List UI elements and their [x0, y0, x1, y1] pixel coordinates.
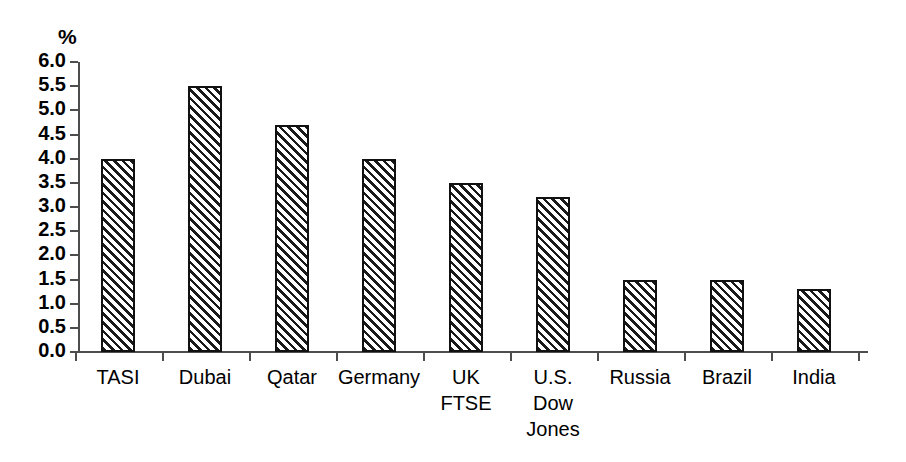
bar-slot — [710, 62, 744, 352]
x-axis-tick-mark — [858, 352, 860, 361]
x-axis-tick-mark — [162, 352, 164, 361]
y-axis-tick-mark — [70, 327, 78, 329]
y-axis-tick-label: 4.5 — [38, 123, 66, 143]
y-axis-tick-label: 5.5 — [38, 74, 66, 94]
x-axis-tick-mark — [249, 352, 251, 361]
y-axis-tick-mark — [70, 85, 78, 87]
y-axis-tick-label: 1.0 — [38, 292, 66, 312]
y-axis-tick-mark — [70, 206, 78, 208]
x-axis-tick-mark — [423, 352, 425, 361]
y-axis-tick-label: 2.0 — [38, 243, 66, 263]
bar[interactable] — [797, 289, 831, 352]
y-axis-tick-mark — [70, 61, 78, 63]
bar-chart: % 0.00.51.01.52.02.53.03.54.04.55.05.56.… — [0, 0, 906, 462]
bar-slot — [101, 62, 135, 352]
bar-slot — [188, 62, 222, 352]
x-axis-tick-mark — [75, 352, 77, 361]
bar[interactable] — [623, 280, 657, 353]
y-axis-tick-mark — [70, 182, 78, 184]
x-axis-tick-mark — [684, 352, 686, 361]
y-axis-tick-label: 2.5 — [38, 219, 66, 239]
y-axis-tick-label: 0.0 — [38, 340, 66, 360]
bar[interactable] — [449, 183, 483, 352]
x-axis-tick-mark — [336, 352, 338, 361]
bar[interactable] — [536, 197, 570, 352]
bar-slot — [362, 62, 396, 352]
y-axis-ticks: 0.00.51.01.52.02.53.03.54.04.55.05.56.0 — [0, 62, 78, 352]
y-axis-tick-mark — [70, 230, 78, 232]
plot-area — [78, 62, 890, 352]
bar-slot — [797, 62, 831, 352]
y-axis-tick-mark — [70, 158, 78, 160]
bar-slot — [449, 62, 483, 352]
bar-slot — [275, 62, 309, 352]
y-axis-tick-label: 4.0 — [38, 147, 66, 167]
y-axis-tick-label: 1.5 — [38, 268, 66, 288]
y-axis-tick-mark — [70, 134, 78, 136]
y-axis-tick-label: 6.0 — [38, 50, 66, 70]
y-axis-unit-label: % — [58, 26, 77, 47]
y-axis-tick-mark — [70, 303, 78, 305]
bar-slot — [536, 62, 570, 352]
y-axis-tick-label: 5.0 — [38, 98, 66, 118]
bar[interactable] — [275, 125, 309, 352]
bar[interactable] — [188, 86, 222, 352]
bar[interactable] — [362, 159, 396, 352]
y-axis-tick-mark — [70, 279, 78, 281]
x-axis-tick-mark — [771, 352, 773, 361]
bar-slot — [623, 62, 657, 352]
y-axis-tick-label: 3.5 — [38, 171, 66, 191]
y-axis-tick-mark — [70, 109, 78, 111]
bar[interactable] — [101, 159, 135, 352]
y-axis-tick-label: 0.5 — [38, 316, 66, 336]
x-axis-tick-mark — [597, 352, 599, 361]
x-axis-tick-mark — [510, 352, 512, 361]
y-axis-tick-mark — [70, 254, 78, 256]
bar[interactable] — [710, 280, 744, 353]
x-axis-category-label: India — [754, 364, 874, 390]
y-axis-tick-label: 3.0 — [38, 195, 66, 215]
